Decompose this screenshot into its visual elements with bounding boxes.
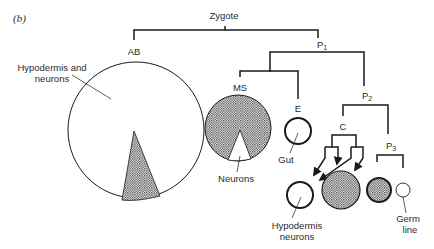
d-cell [367,178,391,202]
ms-fate-label: Neurons [218,173,254,184]
ms-cell [205,95,271,161]
p2-label: P2 [362,90,372,102]
panel-label: (b) [13,12,26,25]
c-label: C [340,121,347,132]
c-daughter-muscle-cell [322,171,360,209]
p1-bracket [270,52,364,86]
germline-pointer [403,197,406,213]
zygote-label: Zygote [209,10,238,21]
ms-label: MS [233,82,247,93]
p2-bracket [343,105,388,134]
germline-cell [396,183,410,197]
cell-lineage-diagram: (b) Zygote AB Hypodermis and neurons P1 … [0,0,434,249]
ab-label: AB [128,46,141,57]
p1-label: P1 [317,39,327,51]
ab-fate-label-1: Hypodermis and [17,62,86,73]
ab-fate-label-2: neurons [35,73,70,84]
e-fate-label: Gut [278,154,294,165]
c-fate-label-2: neurons [280,231,315,242]
p3-label: P3 [386,140,396,152]
c-daughter-hypodermis-cell [287,182,313,208]
p3-fate-label-2: line [403,224,418,235]
ms-e-bracket [240,71,298,99]
zygote-bracket [134,26,318,40]
c-fate-label-1: Hypodermis [272,220,323,231]
e-label: E [295,103,301,114]
p3-bracket [377,155,403,168]
p3-fate-label-1: Germ [396,213,420,224]
e-cell [285,118,311,144]
ab-cell [68,62,204,201]
